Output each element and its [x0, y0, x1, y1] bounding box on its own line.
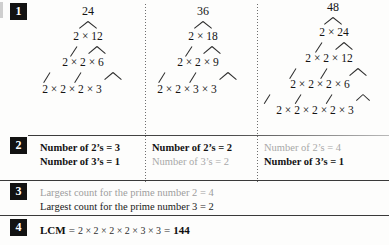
lcm-expression: 2 × 2 × 2 × 2 × 3 × 3	[78, 225, 161, 236]
step-3-badge: 3	[10, 183, 27, 200]
largest-count-prime-2: Largest count for the prime number 2 = 4	[40, 186, 214, 200]
counts-column-36: Number of 2’s = 2 Number of 3’s = 2	[152, 141, 232, 168]
tree-48-branch-l2b	[344, 42, 353, 50]
tree-24-branch-l1a	[88, 21, 97, 29]
tree-48-level-5: 2 × 2 × 2 × 2 × 3	[276, 105, 354, 117]
counts-36-twos: Number of 2’s = 2	[152, 141, 232, 155]
tree-48-branch-l4e	[356, 94, 363, 101]
tree-24-branch-l3d	[104, 72, 113, 80]
lcm-equals-1: =	[69, 224, 75, 236]
counts-48-threes: Number of 3’s = 1	[264, 155, 344, 169]
tree-24-level-2: 2 × 12	[73, 31, 103, 43]
tree-36-branch-l3c	[228, 72, 237, 80]
tree-48-branch-l1a	[333, 17, 342, 25]
rule-above-step-4	[0, 215, 389, 216]
counts-48-twos: Number of 2’s = 4	[264, 141, 344, 155]
tree-24-level-3: 2 × 2 × 6	[62, 57, 104, 69]
tree-24-branch-l3c	[113, 72, 122, 80]
tree-48-branch-l4d	[363, 94, 370, 101]
rule-above-step-3	[0, 180, 389, 181]
tree-24-branch-l3a	[43, 72, 50, 83]
tree-36-branch-l3a	[158, 72, 165, 83]
tree-24-level-4: 2 × 2 × 2 × 3	[42, 84, 102, 96]
tree-48-branch-l4a	[264, 94, 271, 104]
largest-counts-block: Largest count for the prime number 2 = 4…	[40, 186, 214, 214]
factor-tree-36: 36 2 × 18 2 × 2 × 9 2 × 2 × 3 × 3	[145, 0, 257, 132]
tree-48-level-3: 2 × 2 × 12	[305, 53, 352, 65]
lcm-label: LCM	[40, 224, 66, 236]
tree-24-root: 24	[82, 6, 94, 18]
tree-48-level-4: 2 × 2 × 2 × 6	[290, 79, 350, 91]
factor-tree-24: 24 2 × 12 2 × 2 × 6 2 × 2 × 2 × 3	[0, 0, 145, 132]
counts-column-24: Number of 2’s = 3 Number of 3’s = 1	[40, 141, 120, 168]
tree-36-level-4: 2 × 2 × 3 × 3	[157, 84, 217, 96]
counts-36-threes: Number of 3’s = 2	[152, 155, 232, 169]
lcm-equals-2: =	[164, 224, 170, 236]
tree-48-root: 48	[327, 2, 339, 14]
tree-48-branch-l2c	[335, 42, 344, 50]
tree-36-branch-l2b	[212, 46, 221, 54]
tree-48-level-2: 2 × 24	[319, 27, 349, 39]
tree-36-branch-l1a	[203, 21, 212, 29]
counts-column-48: Number of 2’s = 4 Number of 3’s = 1	[264, 141, 344, 168]
largest-count-prime-3: Largest count for the prime number 3 = 2	[40, 200, 214, 214]
tree-36-level-2: 2 × 18	[188, 31, 218, 43]
tree-36-branch-l1b	[194, 21, 203, 29]
lcm-result-line: LCM=2 × 2 × 2 × 2 × 3 × 3=144	[40, 223, 190, 238]
tree-36-branch-l2c	[203, 46, 212, 54]
figure-canvas: 1 24 2 × 12 2 × 2 × 6 2 × 2 × 2 × 3 36 2…	[0, 0, 389, 245]
rule-above-step-2	[28, 135, 389, 136]
tree-48-branch-l3d	[349, 68, 358, 76]
tree-48-branch-l4c	[326, 94, 333, 104]
counts-24-threes: Number of 3’s = 1	[40, 155, 120, 169]
tree-36-branch-l3b	[189, 72, 196, 83]
step-2-badge: 2	[10, 137, 27, 154]
step-4-badge: 4	[10, 219, 27, 236]
tree-48-branch-l4b	[295, 94, 302, 104]
tree-24-branch-l2b	[97, 46, 106, 54]
counts-24-twos: Number of 2’s = 3	[40, 141, 120, 155]
factor-tree-48: 48 2 × 24 2 × 2 × 12 2 × 2 × 2 × 6 2 × 2…	[257, 0, 389, 132]
tree-36-root: 36	[197, 6, 209, 18]
tree-48-branch-l3c	[358, 68, 367, 76]
tree-36-branch-l3d	[219, 72, 228, 80]
tree-48-branch-l1b	[324, 17, 333, 25]
tree-36-level-3: 2 × 2 × 9	[177, 57, 219, 69]
lcm-value: 144	[173, 224, 190, 236]
tree-24-branch-l2c	[88, 46, 97, 54]
tree-24-branch-l1b	[79, 21, 88, 29]
tree-24-branch-l3b	[74, 72, 81, 83]
